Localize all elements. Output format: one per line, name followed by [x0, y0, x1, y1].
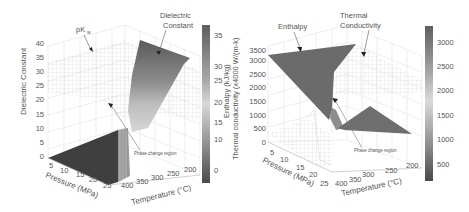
left-z-ticks: 0 5 10 15 20 25 30 35 40 — [36, 39, 44, 161]
right-colorbar — [425, 26, 433, 181]
left-z-label: Dielectric Constant — [19, 47, 28, 115]
svg-text:20: 20 — [36, 95, 44, 104]
svg-text:400: 400 — [121, 181, 134, 190]
svg-text:500: 500 — [253, 124, 266, 133]
thermal-conductivity-mesh-floor — [268, 118, 332, 168]
svg-text:200: 200 — [184, 165, 197, 174]
svg-text:pK: pK — [76, 25, 85, 34]
svg-text:Dielectric: Dielectric — [160, 11, 191, 20]
svg-text:0: 0 — [262, 138, 266, 147]
dielectric-constant-plot: 0 5 10 15 20 25 30 35 40 Dielectric Cons… — [0, 0, 232, 212]
svg-text:5: 5 — [49, 161, 53, 170]
svg-text:1000: 1000 — [249, 111, 266, 120]
svg-text:350: 350 — [136, 177, 149, 186]
left-colorbar-label: Enthalpy (kJ/kg) — [222, 64, 231, 118]
svg-text:Enthalpy: Enthalpy — [278, 22, 307, 31]
svg-text:250: 250 — [385, 166, 398, 175]
enthalpy-surface-low — [338, 106, 412, 134]
annotation-pkw: pK w — [76, 25, 93, 52]
svg-text:2000: 2000 — [249, 83, 266, 92]
svg-text:Phase change region: Phase change region — [354, 148, 397, 153]
svg-text:30: 30 — [36, 67, 44, 76]
svg-text:15: 15 — [76, 170, 84, 179]
right-3d-axes: 0 500 1000 1500 2000 2500 3000 3500 Enth… — [232, 0, 469, 212]
svg-text:3500: 3500 — [249, 46, 266, 55]
svg-text:250: 250 — [167, 169, 180, 178]
svg-text:350: 350 — [349, 175, 362, 184]
svg-text:w: w — [87, 29, 91, 35]
svg-text:35: 35 — [36, 53, 44, 62]
left-3d-axes: 0 5 10 15 20 25 30 35 40 Dielectric Cons… — [0, 0, 232, 212]
svg-text:2500: 2500 — [249, 70, 266, 79]
svg-text:300: 300 — [362, 170, 375, 179]
svg-text:25: 25 — [36, 81, 44, 90]
svg-text:0: 0 — [40, 152, 44, 161]
left-y-label: Temperature (°C) — [130, 183, 192, 207]
svg-text:20: 20 — [89, 175, 97, 184]
svg-text:Conductivity: Conductivity — [340, 21, 381, 30]
svg-text:25: 25 — [103, 181, 111, 190]
svg-text:10: 10 — [60, 166, 68, 175]
svg-text:300: 300 — [151, 173, 164, 182]
svg-text:200: 200 — [406, 161, 419, 170]
svg-text:25: 25 — [320, 179, 328, 188]
svg-text:3000: 3000 — [249, 56, 266, 65]
svg-text:15: 15 — [36, 110, 44, 119]
pkw-mesh-surface — [48, 40, 200, 120]
svg-text:Constant: Constant — [163, 21, 194, 30]
svg-text:5: 5 — [270, 148, 274, 157]
svg-text:Thermal: Thermal — [340, 11, 368, 20]
enthalpy-thermal-conductivity-plot: 0 500 1000 1500 2000 2500 3000 3500 Enth… — [232, 0, 469, 212]
svg-text:40: 40 — [36, 39, 44, 48]
svg-text:400: 400 — [335, 179, 348, 188]
right-z-label-thermal: Thermal conductivity (x4000 W/(m-k) — [232, 37, 240, 160]
svg-text:Phase change region: Phase change region — [134, 151, 177, 156]
right-z-ticks: 0 500 1000 1500 2000 2500 3000 3500 — [249, 46, 266, 147]
svg-text:10: 10 — [36, 124, 44, 133]
svg-text:1500: 1500 — [249, 97, 266, 106]
left-colorbar — [202, 25, 210, 183]
svg-text:5: 5 — [40, 138, 44, 147]
